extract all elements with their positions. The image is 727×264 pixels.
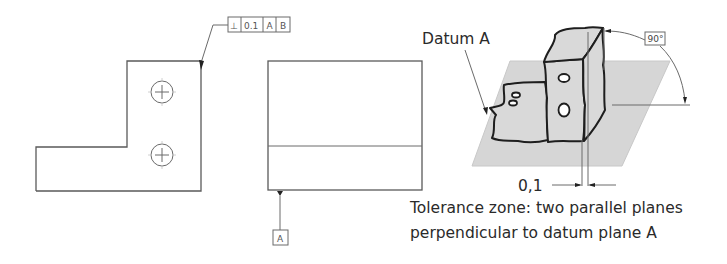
side-view: A: [268, 61, 422, 245]
angle-label: 90°: [648, 34, 664, 44]
angle-arc-upper: [606, 31, 645, 40]
side-view-outline: [268, 61, 422, 190]
fcf-tolerance-value: 0.1: [244, 21, 258, 31]
leader-arrowhead-icon: [199, 60, 204, 70]
datum-a-callout-leader: [465, 50, 486, 112]
datum-a-label: A: [277, 234, 284, 244]
dim-arrow-left-icon: [588, 183, 595, 187]
datum-triangle-icon: [277, 191, 283, 196]
feature-control-frame: ⊥ 0.1 A B: [228, 17, 290, 32]
fcf-leader-line: [201, 25, 228, 63]
dim-arrow-right-icon: [575, 183, 582, 187]
zone-width-label: 0,1: [518, 177, 543, 195]
datum-a-callout: Datum A: [422, 30, 490, 48]
fcf-datum-primary: A: [267, 21, 274, 31]
pictorial-view: 0,1 90° Datum A Tolerance zone: two para…: [409, 27, 690, 242]
angle-arrow-bottom-icon: [683, 97, 687, 104]
angle-arrow-top-icon: [604, 29, 611, 33]
part-vertical-leg-front: [544, 59, 585, 142]
caption-line-2: perpendicular to datum plane A: [410, 224, 657, 242]
hole-lower: [148, 141, 176, 169]
hole-upper: [148, 78, 176, 106]
datum-a-callout-arrow-icon: [483, 107, 488, 115]
caption-line-1: Tolerance zone: two parallel planes: [409, 199, 683, 217]
fcf-datum-secondary: B: [280, 21, 286, 31]
l-part-outline: [36, 61, 201, 191]
front-view-l-part: [36, 25, 228, 191]
perpendicularity-symbol-icon: ⊥: [230, 21, 238, 31]
gdt-perpendicularity-diagram: ⊥ 0.1 A B A: [0, 0, 727, 264]
